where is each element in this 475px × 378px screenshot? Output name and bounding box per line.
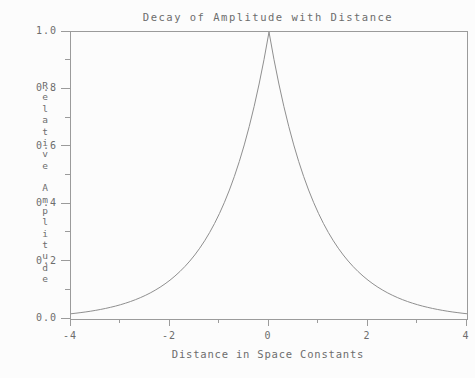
y-axis-label-char: a: [42, 114, 48, 125]
y-axis-label-char: t: [42, 126, 48, 137]
y-tick-label: 0.6: [31, 140, 57, 152]
x-tick-label: 0: [255, 330, 281, 342]
x-tick-label: -4: [57, 330, 83, 342]
y-axis-label-char: e: [42, 273, 48, 284]
plot-area: [70, 31, 468, 320]
y-axis-label-char: e: [42, 160, 48, 171]
y-major-tick: [61, 260, 70, 261]
x-axis-label: Distance in Space Constants: [70, 348, 466, 362]
chart-canvas: Decay of Amplitude with Distance Relativ…: [0, 0, 475, 378]
y-tick-label: 0.2: [31, 255, 57, 267]
y-axis-label-char: l: [42, 103, 48, 114]
y-minor-tick: [65, 289, 70, 290]
curve-svg: [71, 32, 467, 319]
chart-title: Decay of Amplitude with Distance: [70, 11, 466, 25]
y-minor-tick: [65, 117, 70, 118]
x-tick-label: 4: [453, 330, 475, 342]
y-tick-label: 0.0: [31, 312, 57, 324]
x-minor-tick: [317, 319, 318, 323]
y-major-tick: [61, 31, 70, 32]
x-major-tick: [466, 319, 467, 326]
x-minor-tick: [119, 319, 120, 323]
y-minor-tick: [65, 231, 70, 232]
x-minor-tick: [218, 319, 219, 323]
y-axis-label-char: A: [42, 182, 48, 193]
x-tick-label: -2: [156, 330, 182, 342]
x-major-tick: [169, 319, 170, 326]
amplitude-decay-curve: [71, 32, 467, 314]
x-minor-tick: [416, 319, 417, 323]
y-major-tick: [61, 145, 70, 146]
x-major-tick: [70, 319, 71, 326]
y-major-tick: [61, 203, 70, 204]
y-major-tick: [61, 88, 70, 89]
y-tick-label: 0.8: [31, 82, 57, 94]
y-minor-tick: [65, 59, 70, 60]
x-major-tick: [268, 319, 269, 326]
y-minor-tick: [65, 174, 70, 175]
y-tick-label: 1.0: [31, 25, 57, 37]
y-tick-label: 0.4: [31, 197, 57, 209]
y-axis-label-char: i: [42, 228, 48, 239]
y-axis-label-char: t: [42, 239, 48, 250]
x-tick-label: 2: [354, 330, 380, 342]
x-major-tick: [367, 319, 368, 326]
y-axis-label-char: l: [42, 216, 48, 227]
